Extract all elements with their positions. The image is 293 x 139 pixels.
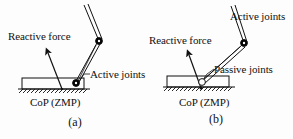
a-ground-hatching (19, 89, 87, 93)
b-ankle-joint (199, 79, 206, 86)
b-passive-joints-label: Passive joints (214, 64, 273, 75)
a-caption: (a) (55, 116, 95, 128)
b-ground-hatching (164, 87, 232, 91)
panel-b: Reactive force Active joints Passive joi… (147, 0, 293, 139)
a-reactive-force-label: Reactive force (8, 31, 70, 42)
a-cop-point (61, 88, 63, 90)
a-active-joints-label: Active joints (90, 69, 145, 80)
b-caption: (b) (196, 113, 236, 125)
a-knee-joint-center (98, 40, 100, 42)
figure-root: Reactive force Active joints CoP (ZMP) (… (0, 0, 293, 139)
a-cop-label: CoP (ZMP) (30, 97, 80, 108)
a-reactive-force-arrow (48, 53, 62, 89)
b-reactive-force-label: Reactive force (149, 35, 211, 46)
b-knee-joint-center (243, 42, 245, 44)
b-cop-point (200, 87, 203, 90)
a-ankle-joint-center (75, 82, 77, 84)
b-cop-label: CoP (ZMP) (179, 97, 229, 108)
b-active-joints-label: Active joints (230, 11, 285, 22)
a-thigh-link (84, 4, 102, 41)
panel-a: Reactive force Active joints CoP (ZMP) (… (0, 0, 146, 139)
